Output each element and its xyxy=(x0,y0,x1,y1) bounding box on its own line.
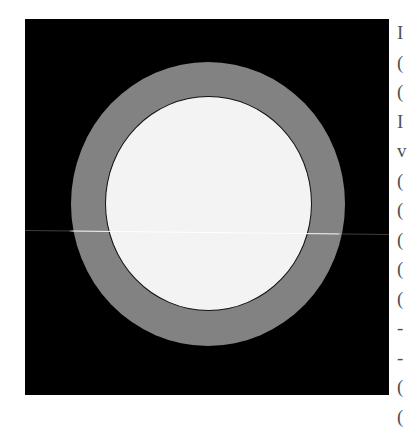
clipped-glyph: ( xyxy=(397,77,409,107)
clipped-glyph: v xyxy=(397,136,409,166)
clipped-glyph: ( xyxy=(397,372,409,402)
clipped-glyph: I xyxy=(397,18,409,48)
clipped-glyph: ( xyxy=(397,166,409,196)
clipped-glyph: ( xyxy=(397,284,409,314)
clipped-glyph: ( xyxy=(397,254,409,284)
clipped-glyph: - xyxy=(397,343,409,373)
clipped-adjacent-text: I ( ( I v ( ( ( ( ( - - ( ( xyxy=(397,18,409,430)
clipped-glyph: ( xyxy=(397,402,409,430)
clipped-glyph: ( xyxy=(397,225,409,255)
concentric-circles-figure xyxy=(25,19,389,395)
clipped-glyph: I xyxy=(397,107,409,137)
clipped-glyph: ( xyxy=(397,195,409,225)
inner-light-disk xyxy=(105,96,312,311)
clipped-glyph: ( xyxy=(397,48,409,78)
clipped-glyph: - xyxy=(397,313,409,343)
